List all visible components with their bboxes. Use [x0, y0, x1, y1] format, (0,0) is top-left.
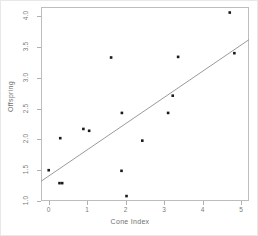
y-tick-label: 4.0	[22, 6, 29, 26]
x-tick-label: 2	[117, 206, 135, 213]
data-point	[82, 128, 85, 131]
data-point	[61, 182, 64, 185]
data-point	[167, 112, 170, 115]
x-tick-label: 4	[194, 206, 212, 213]
data-point	[110, 56, 113, 59]
y-tick-mark	[37, 109, 41, 110]
x-tick-mark	[203, 201, 204, 205]
y-tick-mark	[37, 47, 41, 48]
y-tick-mark	[37, 170, 41, 171]
x-tick-label: 0	[40, 206, 58, 213]
x-tick-label: 1	[78, 206, 96, 213]
y-tick-label: 1.5	[22, 160, 29, 180]
plot-area	[41, 7, 249, 201]
y-tick-mark	[37, 201, 41, 202]
data-point	[177, 56, 180, 59]
scatter-plot-figure: 012345 1.01.52.02.53.03.54.0 Cone Index …	[0, 0, 258, 236]
y-tick-label: 3.0	[22, 67, 29, 87]
data-point	[58, 182, 61, 185]
x-tick-label: 3	[155, 206, 173, 213]
y-tick-label: 2.0	[22, 129, 29, 149]
y-tick-label: 3.5	[22, 37, 29, 57]
data-point	[141, 139, 144, 142]
data-point	[88, 129, 91, 132]
data-point	[47, 169, 50, 172]
y-axis-label: Offspring	[7, 62, 14, 132]
x-tick-mark	[241, 201, 242, 205]
data-point	[59, 137, 62, 140]
data-point	[228, 11, 231, 14]
data-point	[121, 112, 124, 115]
y-tick-label: 1.0	[22, 191, 29, 211]
data-point	[125, 195, 128, 198]
data-point	[233, 52, 236, 55]
x-tick-label: 5	[232, 206, 250, 213]
regression-line	[41, 40, 249, 182]
x-axis-label: Cone Index	[1, 218, 258, 225]
data-points	[47, 11, 235, 197]
y-tick-mark	[37, 139, 41, 140]
y-tick-mark	[37, 78, 41, 79]
x-tick-mark	[87, 201, 88, 205]
x-tick-mark	[126, 201, 127, 205]
x-tick-mark	[164, 201, 165, 205]
y-tick-mark	[37, 16, 41, 17]
x-tick-mark	[49, 201, 50, 205]
y-tick-label: 2.5	[22, 98, 29, 118]
data-point	[120, 170, 123, 173]
data-point	[171, 94, 174, 97]
